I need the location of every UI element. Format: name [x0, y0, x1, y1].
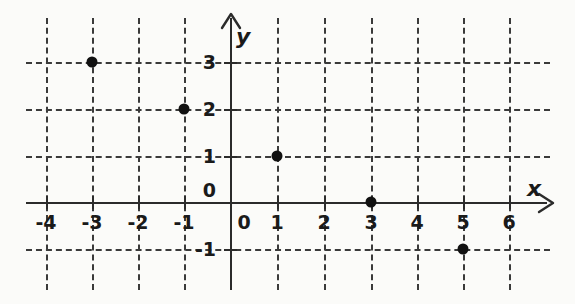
x-tick-label-4: 4: [410, 213, 423, 232]
data-point-5-neg1[interactable]: [458, 244, 469, 255]
y-tick-mark-1: [224, 156, 237, 158]
y-tick-mark-2: [224, 109, 237, 111]
x-tick-mark-5: [463, 196, 465, 209]
data-point-neg1-2[interactable]: [179, 104, 190, 115]
x-tick-mark-neg4: [46, 196, 48, 209]
x-tick-label-0: 0: [237, 213, 250, 232]
y-tick-mark-neg1: [224, 249, 237, 251]
x-tick-mark-neg3: [92, 196, 94, 209]
x-axis-label: x: [527, 178, 541, 200]
y-tick-label-neg1: -1: [178, 240, 216, 259]
x-axis-line: [26, 202, 547, 204]
y-axis-label: y: [236, 26, 250, 48]
x-tick-mark-6: [509, 196, 511, 209]
gridline-horizontal-y-3: [26, 62, 550, 64]
y-tick-label-0: 0: [178, 181, 216, 200]
x-tick-label-5: 5: [456, 213, 469, 232]
x-tick-label-neg4: -4: [35, 213, 56, 232]
data-point-1-1[interactable]: [272, 151, 283, 162]
y-tick-label-1: 1: [178, 147, 216, 166]
data-point-neg3-3[interactable]: [87, 57, 98, 68]
x-tick-mark-1: [277, 196, 279, 209]
x-tick-mark-2: [324, 196, 326, 209]
x-tick-label-neg1: -1: [173, 213, 194, 232]
y-tick-mark-3: [224, 62, 237, 64]
x-tick-mark-neg2: [138, 196, 140, 209]
gridline-horizontal-y-1: [26, 156, 550, 158]
x-tick-label-6: 6: [502, 213, 515, 232]
gridline-horizontal-y-2: [26, 109, 550, 111]
x-tick-mark-4: [417, 196, 419, 209]
x-tick-label-3: 3: [364, 213, 377, 232]
x-tick-label-2: 2: [317, 213, 330, 232]
gridline-horizontal-y-neg1: [26, 249, 550, 251]
x-tick-label-1: 1: [270, 213, 283, 232]
data-point-3-0[interactable]: [366, 197, 377, 208]
x-tick-label-neg3: -3: [81, 213, 102, 232]
coordinate-plane-figure: -4 -3 -2 -1 0 1 2 3 4 5 6 3 2 1 0 -1 x y: [0, 0, 575, 304]
x-tick-label-neg2: -2: [127, 213, 148, 232]
y-tick-label-3: 3: [178, 53, 216, 72]
